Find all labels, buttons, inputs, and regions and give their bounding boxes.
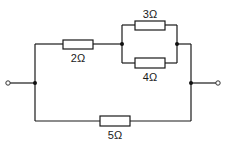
junction-parallel-left (120, 42, 124, 46)
label-4ohm: 4Ω (143, 71, 157, 83)
circuit-diagram: 2Ω 3Ω 4Ω 5Ω (0, 0, 225, 144)
right-terminal (216, 81, 220, 85)
junction-right (189, 81, 193, 85)
label-5ohm: 5Ω (108, 129, 122, 141)
junction-left (33, 81, 37, 85)
resistor-5ohm (100, 116, 130, 126)
resistor-3ohm (135, 21, 165, 30)
resistor-2ohm (63, 40, 93, 49)
left-terminal (6, 81, 10, 85)
resistor-4ohm (135, 58, 165, 68)
label-2ohm: 2Ω (71, 52, 85, 64)
label-3ohm: 3Ω (143, 8, 157, 20)
junction-parallel-right (175, 42, 179, 46)
